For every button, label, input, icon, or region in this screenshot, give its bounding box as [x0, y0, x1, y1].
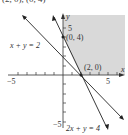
arrow-icon — [105, 124, 109, 130]
point-2-0 — [80, 74, 83, 77]
y-axis-label: y — [65, 12, 70, 21]
line-label-2x-plus-y-eq-4: 2x + y = 4 — [66, 124, 100, 133]
tick-label-y-neg5: −5 — [53, 120, 62, 129]
tick-label-x-5: 5 — [106, 77, 110, 86]
graph: 5 −5 −5 5 y x (0, 4) (2, 0) x + y = 2 2x… — [0, 0, 128, 135]
tick-label-x-neg5: −5 — [7, 77, 16, 86]
x-axis-label: x — [120, 65, 125, 74]
point-label-2-0: (2, 0) — [84, 63, 102, 72]
point-label-0-4: (0, 4) — [66, 33, 84, 42]
point-0-4 — [62, 36, 65, 39]
arrow-icon — [52, 15, 56, 21]
line-label-x-plus-y-eq-2: x + y = 2 — [9, 41, 40, 50]
tick-label-y-5: 5 — [68, 24, 72, 33]
